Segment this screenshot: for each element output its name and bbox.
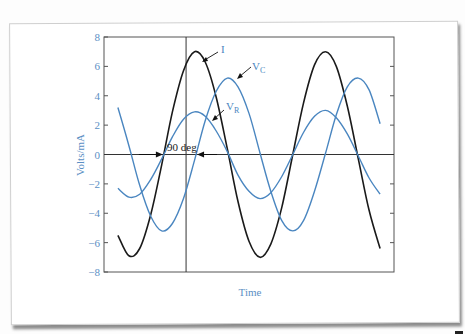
x-axis-title: Time	[239, 286, 262, 298]
chart: 86420−2−4−6−8 90 deg I VC VR	[0, 0, 465, 334]
y-tick-label: 8	[95, 31, 101, 43]
label-VR-text: VR	[226, 100, 240, 115]
arrowhead-right-icon	[156, 152, 163, 158]
y-tick-label: −6	[88, 237, 100, 249]
label-I-text: I	[221, 43, 225, 55]
y-tick-label: −8	[88, 266, 100, 278]
y-tick-label: −4	[88, 207, 100, 219]
arrowhead-left-icon	[197, 152, 204, 158]
label-VC: VC	[237, 60, 265, 79]
y-tick-label: 6	[95, 60, 101, 72]
y-axis-title: Volts/mA	[74, 134, 86, 176]
y-tick-label: −2	[88, 178, 100, 190]
figure-page: 86420−2−4−6−8 90 deg I VC VR	[0, 0, 465, 334]
label-VR: VR	[212, 100, 240, 121]
y-tick-label: 2	[95, 119, 101, 131]
y-tick-label: 4	[95, 90, 101, 102]
label-I: I	[202, 43, 225, 62]
y-tick-label: 0	[95, 149, 101, 161]
label-VC-text: VC	[252, 60, 265, 75]
phase-label: 90 deg	[167, 141, 197, 153]
phase-annotation: 90 deg	[139, 141, 217, 158]
